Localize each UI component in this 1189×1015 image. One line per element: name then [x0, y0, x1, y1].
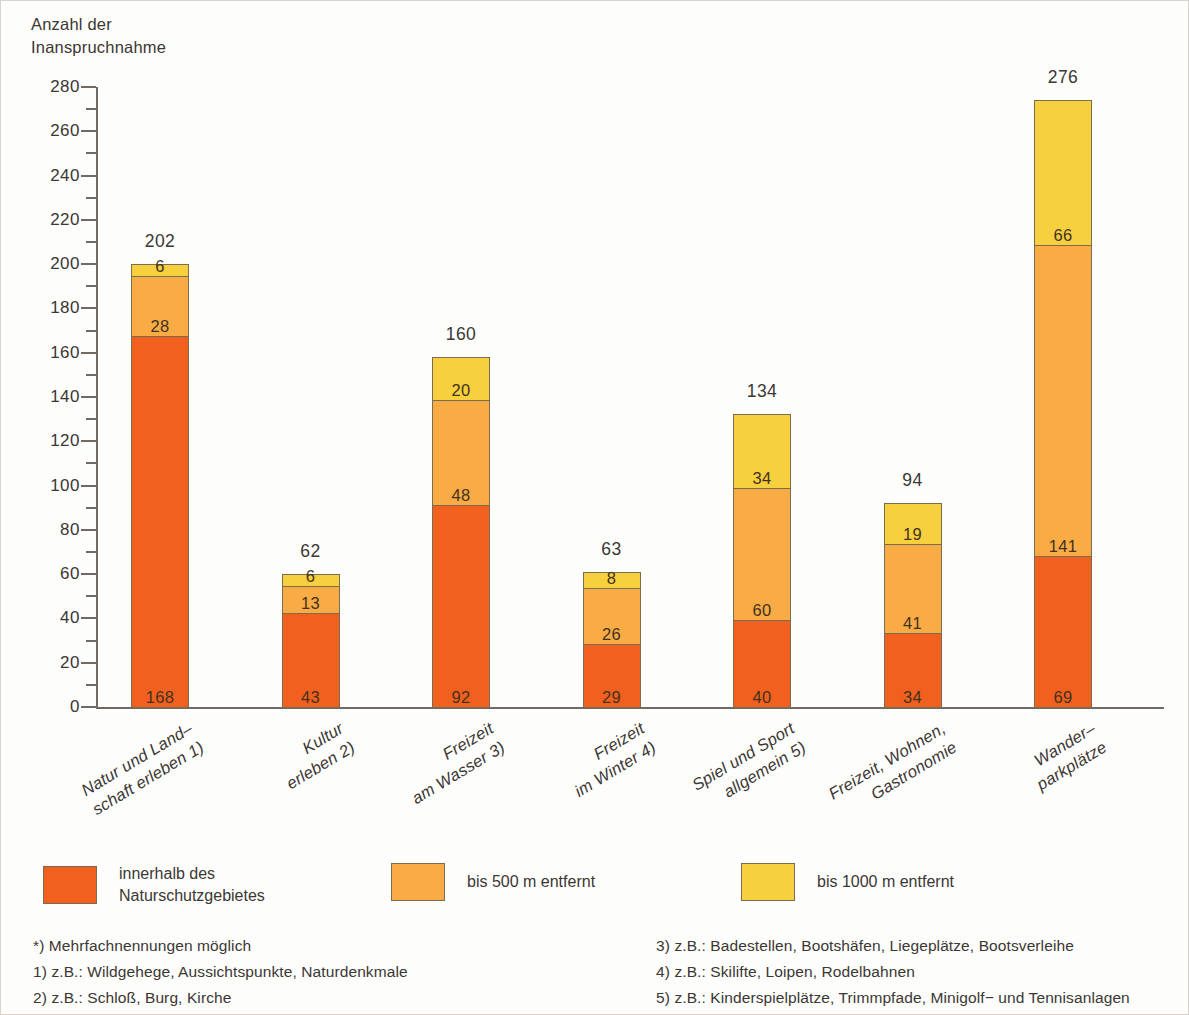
- y-axis-line: [96, 87, 98, 709]
- y-tick-minor: [86, 418, 96, 420]
- y-tick-major: [81, 86, 96, 88]
- legend-label: bis 1000 m entfernt: [817, 871, 954, 893]
- y-tick-label: 280: [50, 77, 80, 97]
- y-tick-major: [81, 706, 96, 708]
- y-tick-major: [81, 617, 96, 619]
- stacked-bar[interactable]: 6614169276: [1034, 100, 1092, 707]
- y-tick-label: 140: [50, 387, 80, 407]
- bar-segment-value: 34: [753, 470, 772, 489]
- bar-segment-value: 6: [306, 568, 315, 587]
- bar-segment-value: 20: [452, 382, 471, 401]
- y-tick-major: [81, 130, 96, 132]
- bar-segment-value: 26: [602, 626, 621, 645]
- y-tick-major: [81, 307, 96, 309]
- bar-total-label: 63: [601, 539, 621, 560]
- footnote-line: 2) z.B.: Schloß, Burg, Kirche: [33, 985, 408, 1011]
- bar-segment-value: 92: [452, 689, 471, 708]
- bar-segment-value: 13: [301, 595, 320, 614]
- y-tick-minor: [86, 462, 96, 464]
- legend-item[interactable]: bis 1000 m entfernt: [741, 863, 954, 901]
- bar-segment[interactable]: 43: [282, 613, 340, 708]
- bar-segment[interactable]: 41: [884, 544, 942, 635]
- bar-segment[interactable]: 92: [432, 505, 490, 709]
- plot-area: 020406080100120140160180200220240260280 …: [96, 87, 1164, 709]
- bar-segment[interactable]: 29: [583, 644, 641, 708]
- footnote-line: 4) z.B.: Skilifte, Loipen, Rodelbahnen: [656, 959, 1130, 985]
- bar-segment[interactable]: 69: [1034, 556, 1092, 709]
- y-tick-label: 180: [50, 298, 80, 318]
- y-tick-label: 0: [70, 697, 80, 717]
- bar-segment[interactable]: 141: [1034, 245, 1092, 557]
- y-tick-major: [81, 219, 96, 221]
- y-tick-major: [81, 175, 96, 177]
- legend-item[interactable]: innerhalb des Naturschutzgebietes: [43, 863, 265, 907]
- legend-swatch: [43, 866, 97, 904]
- y-tick-major: [81, 529, 96, 531]
- y-tick-label: 20: [60, 653, 80, 673]
- footnote-line: 5) z.B.: Kinderspielplätze, Trimmpfade, …: [656, 985, 1130, 1011]
- y-tick-label: 40: [60, 608, 80, 628]
- y-tick-minor: [86, 551, 96, 553]
- footnote-line: 3) z.B.: Badestellen, Bootshäfen, Liegep…: [656, 933, 1130, 959]
- stacked-bar[interactable]: 204892160: [432, 357, 490, 707]
- bar-segment[interactable]: 20: [432, 357, 490, 401]
- footnote-line: *) Mehrfachnennungen möglich: [33, 933, 408, 959]
- bar-segment-value: 60: [753, 602, 772, 621]
- legend-label: innerhalb des Naturschutzgebietes: [119, 863, 265, 907]
- stacked-bar[interactable]: 8262963: [583, 572, 641, 707]
- bar-segment[interactable]: 60: [733, 488, 791, 621]
- y-tick-label: 260: [50, 121, 80, 141]
- bar-total-label: 276: [1048, 67, 1079, 88]
- bar-total-label: 160: [446, 324, 477, 345]
- bar-segment-value: 41: [903, 615, 922, 634]
- y-tick-minor: [86, 330, 96, 332]
- bar-segment[interactable]: 28: [131, 276, 189, 338]
- bar-segment-value: 141: [1049, 538, 1077, 557]
- legend-item[interactable]: bis 500 m entfernt: [391, 863, 595, 901]
- y-tick-major: [81, 263, 96, 265]
- bar-segment-value: 40: [753, 689, 772, 708]
- bar-segment[interactable]: 40: [733, 620, 791, 709]
- bar-segment-value: 168: [146, 689, 174, 708]
- y-tick-label: 120: [50, 431, 80, 451]
- bar-segment-value: 29: [602, 689, 621, 708]
- y-tick-major: [81, 573, 96, 575]
- y-tick-label: 100: [50, 476, 80, 496]
- y-tick-minor: [86, 374, 96, 376]
- bar-segment[interactable]: 19: [884, 503, 942, 545]
- bar-segment-value: 48: [452, 487, 471, 506]
- footnotes-right: 3) z.B.: Badestellen, Bootshäfen, Liegep…: [656, 933, 1130, 1011]
- bar-total-label: 62: [300, 541, 320, 562]
- chart-legend: innerhalb des Naturschutzgebietesbis 500…: [1, 853, 1189, 913]
- bar-segment[interactable]: 168: [131, 336, 189, 708]
- bar-segment[interactable]: 66: [1034, 100, 1092, 246]
- bar-segment[interactable]: 34: [884, 633, 942, 708]
- y-tick-major: [81, 352, 96, 354]
- y-tick-minor: [86, 285, 96, 287]
- y-tick-label: 60: [60, 564, 80, 584]
- bar-segment[interactable]: 48: [432, 400, 490, 506]
- bar-total-label: 94: [902, 470, 922, 491]
- y-tick-label: 240: [50, 166, 80, 186]
- stacked-bar[interactable]: 6134362: [282, 574, 340, 707]
- y-tick-minor: [86, 684, 96, 686]
- y-tick-major: [81, 485, 96, 487]
- bar-segment[interactable]: 34: [733, 414, 791, 489]
- chart-page: Anzahl der Inanspruchnahme 0204060801001…: [0, 0, 1189, 1015]
- y-tick-label: 220: [50, 210, 80, 230]
- bar-segment[interactable]: 26: [583, 588, 641, 646]
- y-tick-minor: [86, 640, 96, 642]
- stacked-bar[interactable]: 346040134: [733, 414, 791, 707]
- bar-segment-value: 69: [1054, 689, 1073, 708]
- bar-segment-value: 28: [151, 318, 170, 337]
- y-tick-major: [81, 662, 96, 664]
- y-tick-minor: [86, 108, 96, 110]
- legend-swatch: [391, 863, 445, 901]
- bar-segment-value: 43: [301, 689, 320, 708]
- y-tick-major: [81, 396, 96, 398]
- stacked-bar[interactable]: 628168202: [131, 264, 189, 707]
- bar-segment[interactable]: 13: [282, 586, 340, 615]
- stacked-bar[interactable]: 19413494: [884, 503, 942, 707]
- bar-segment[interactable]: 8: [583, 572, 641, 590]
- y-tick-minor: [86, 152, 96, 154]
